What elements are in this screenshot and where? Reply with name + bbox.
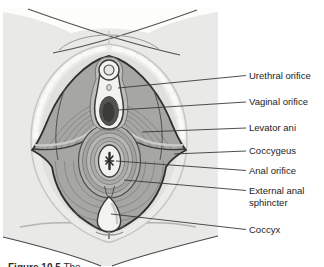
figure-caption-text: The — [63, 262, 80, 267]
urogenital-structures — [90, 57, 128, 130]
label-urethral-orifice: Urethral orifice — [249, 70, 324, 82]
label-coccyx: Coccyx — [249, 224, 324, 236]
urethral-orifice — [107, 85, 112, 91]
label-levator-ani: Levator ani — [249, 122, 324, 134]
label-external-anal-sphincter: External anal sphincter — [249, 185, 324, 209]
label-coccygeus: Coccygeus — [249, 145, 324, 157]
external-anal-sphincter — [79, 124, 141, 198]
figure-caption-number: Figure 10.5 — [8, 262, 61, 267]
vaginal-orifice-inner — [103, 102, 115, 122]
label-anal-orifice: Anal orifice — [249, 165, 324, 177]
clitoral-ring-inner — [104, 65, 114, 75]
figure-caption: Figure 10.5 The — [8, 262, 308, 267]
figure-panel: Urethral orifice Vaginal orifice Levator… — [0, 0, 324, 267]
label-vaginal-orifice: Vaginal orifice — [249, 96, 324, 108]
